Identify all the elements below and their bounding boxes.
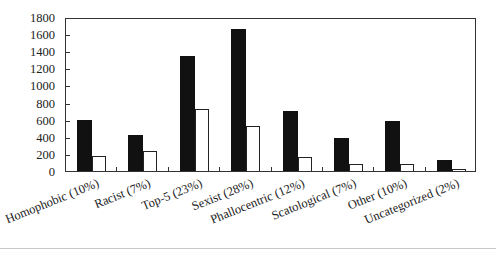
bar-white xyxy=(298,157,312,171)
x-tick xyxy=(168,167,169,171)
x-tick xyxy=(116,167,117,171)
y-tick xyxy=(66,52,70,53)
y-tick-label: 0 xyxy=(5,166,55,178)
x-tick xyxy=(425,167,426,171)
y-tick xyxy=(66,121,70,122)
bar-chart: 020040060080010001200140016001800 Homoph… xyxy=(0,0,496,256)
bar-white xyxy=(143,151,157,171)
bar-white xyxy=(92,156,106,171)
x-tick xyxy=(271,167,272,171)
bar-black xyxy=(231,29,246,171)
bar-white xyxy=(349,164,363,171)
y-tick-label: 1800 xyxy=(5,12,55,24)
y-tick-label: 1000 xyxy=(5,80,55,92)
x-tick-label: Homophobic (10%) xyxy=(4,176,102,227)
x-tick xyxy=(373,167,374,171)
y-tick-label: 200 xyxy=(5,149,55,161)
bar-black xyxy=(334,138,349,171)
bar-white xyxy=(400,164,414,171)
y-tick xyxy=(66,155,70,156)
y-tick xyxy=(66,138,70,139)
y-tick-label: 1200 xyxy=(5,63,55,75)
bar-black xyxy=(128,135,143,171)
y-tick-label: 1400 xyxy=(5,46,55,58)
y-tick xyxy=(66,86,70,87)
y-tick-label: 1600 xyxy=(5,29,55,41)
y-tick-label: 800 xyxy=(5,98,55,110)
bar-black xyxy=(385,121,400,171)
bar-black xyxy=(437,160,452,171)
x-tick xyxy=(322,167,323,171)
divider xyxy=(0,248,496,249)
bar-black xyxy=(283,111,298,171)
plot-area xyxy=(65,18,476,172)
bar-white xyxy=(452,169,466,171)
bar-white xyxy=(195,109,209,171)
bar-white xyxy=(246,126,260,171)
y-tick xyxy=(66,104,70,105)
bar-black xyxy=(77,120,92,171)
y-tick-label: 600 xyxy=(5,115,55,127)
y-tick xyxy=(66,35,70,36)
y-tick-label: 400 xyxy=(5,132,55,144)
y-tick xyxy=(66,69,70,70)
x-tick xyxy=(219,167,220,171)
bar-black xyxy=(180,56,195,171)
